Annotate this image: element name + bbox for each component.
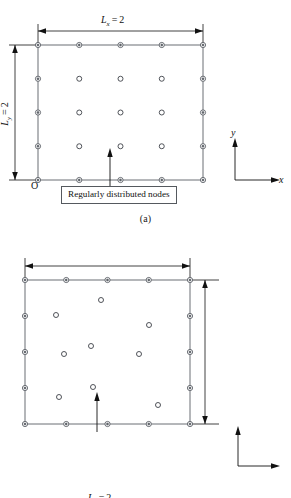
coordinate-axes-a <box>235 142 276 180</box>
interior-nodes-b <box>54 298 161 408</box>
panel-a-regular-nodes: Lx = 2 Ly = 2 O y x Regularly distribute… <box>0 0 291 250</box>
arrowhead-lx-left-b <box>25 263 33 269</box>
arrowhead-ly-bottom-b <box>202 416 208 424</box>
callout-arrow-b <box>94 392 99 432</box>
dimension-label-lx-a: Lx = 2 <box>101 14 124 28</box>
axis-label-y-a: y <box>231 127 235 138</box>
panel-caption-a: (a) <box>0 213 291 224</box>
panel-b-diagram <box>0 240 291 498</box>
boundary-nodes-b <box>22 277 192 426</box>
panel-b-irregular-nodes: Lx = 2 Ly = 2 O y x Irregularly distribu… <box>0 240 291 498</box>
arrowhead-y-axis-b <box>235 426 240 435</box>
arrowhead-y-axis-a <box>232 138 237 147</box>
annotation-box-regular-nodes: Regularly distributed nodes <box>61 186 177 204</box>
figure-node-distributions: Lx = 2 Ly = 2 O y x Regularly distribute… <box>0 0 291 498</box>
arrowhead-ly-bottom-a <box>12 172 18 180</box>
origin-label-a: O <box>31 180 38 191</box>
arrowhead-lx-right-b <box>182 263 190 269</box>
arrowhead-x-axis-b <box>271 463 280 468</box>
arrowhead-lx-left-a <box>38 28 46 34</box>
arrowhead-lx-right-a <box>195 28 203 34</box>
axis-label-x-a: x <box>279 174 283 185</box>
dimension-label-lx-b: Lx = 2 <box>88 492 111 498</box>
arrowhead-ly-top-b <box>202 280 208 288</box>
interior-nodes-a <box>77 76 165 149</box>
coordinate-axes-b <box>238 430 276 466</box>
domain-boundary-b <box>25 280 190 424</box>
arrowhead-ly-top-a <box>12 45 18 53</box>
dimension-label-ly-a: Ly = 2 <box>0 102 13 125</box>
